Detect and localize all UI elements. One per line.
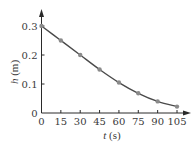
x-tick-label: 90 bbox=[151, 116, 164, 127]
y-axis-label: h (m) bbox=[8, 60, 21, 84]
x-tick-label: 45 bbox=[93, 116, 106, 127]
data-point bbox=[39, 24, 43, 28]
x-tick-label: 0 bbox=[38, 116, 44, 127]
x-tick-label: 105 bbox=[167, 116, 186, 127]
data-point bbox=[155, 99, 159, 103]
x-axis-arrow-icon bbox=[183, 111, 191, 116]
data-point bbox=[175, 104, 179, 108]
fit-curve bbox=[42, 26, 178, 107]
y-tick-label: 0.2 bbox=[22, 50, 38, 61]
data-point bbox=[97, 67, 101, 71]
x-tick-label: 15 bbox=[54, 116, 67, 127]
height-vs-time-chart: 00.10.20.3 0153045607590105 t (s) h (m) bbox=[0, 0, 194, 151]
x-tick-label: 75 bbox=[132, 116, 145, 127]
y-tick-label: 0.1 bbox=[22, 79, 38, 90]
y-tick-label: 0 bbox=[31, 108, 37, 119]
data-points bbox=[39, 24, 179, 109]
data-point bbox=[117, 80, 121, 84]
y-tick-label: 0.3 bbox=[22, 21, 38, 32]
x-tick-label: 30 bbox=[74, 116, 87, 127]
axes bbox=[39, 9, 191, 116]
data-point bbox=[136, 91, 140, 95]
data-point bbox=[59, 38, 63, 42]
x-axis-label: t (s) bbox=[103, 129, 121, 142]
data-point bbox=[78, 53, 82, 57]
x-tick-label: 60 bbox=[113, 116, 126, 127]
y-axis-arrow-icon bbox=[39, 9, 44, 17]
